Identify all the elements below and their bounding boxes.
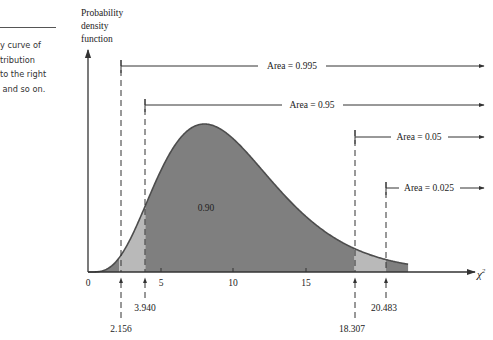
svg-text:2.156: 2.156 xyxy=(110,324,132,334)
svg-text:Area = 0.95: Area = 0.95 xyxy=(289,100,334,110)
x-axis-label: χ2 xyxy=(476,267,486,280)
svg-text:18.307: 18.307 xyxy=(339,324,365,334)
svg-text:10: 10 xyxy=(228,278,238,288)
x-tick-labels: 0 5 10 15 xyxy=(86,278,311,288)
critical-value-18307: Area = 0.05 18.307 xyxy=(339,130,484,334)
svg-text:Area = 0.05: Area = 0.05 xyxy=(396,132,441,142)
svg-text:3.940: 3.940 xyxy=(134,303,156,313)
y-axis-label: Probability density function xyxy=(81,8,126,44)
center-area-label: 0.90 xyxy=(198,203,215,213)
density-fill xyxy=(88,124,408,272)
svg-text:15: 15 xyxy=(301,278,311,288)
chi-square-chart: Probability density function χ2 0 5 10 1… xyxy=(0,0,493,340)
svg-text:20.483: 20.483 xyxy=(371,303,397,313)
critical-value-20483: Area = 0.025 20.483 xyxy=(371,182,484,313)
svg-text:5: 5 xyxy=(159,278,164,288)
svg-text:Area = 0.025: Area = 0.025 xyxy=(404,183,454,193)
svg-text:Area = 0.995: Area = 0.995 xyxy=(267,61,317,71)
svg-text:0: 0 xyxy=(86,278,91,288)
